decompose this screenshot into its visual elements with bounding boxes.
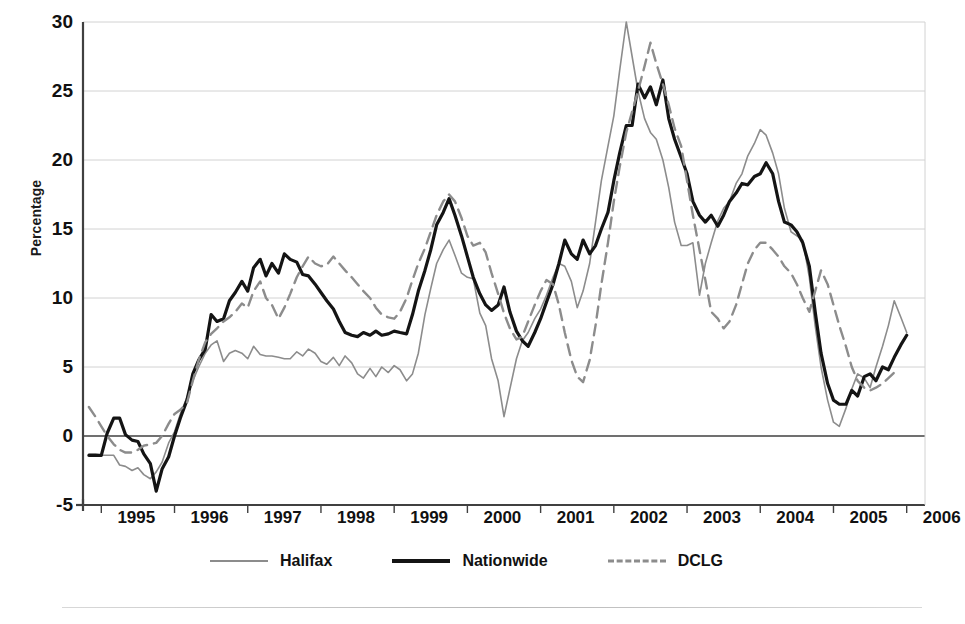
legend-swatch-halifax-icon: [210, 554, 268, 568]
chart-legend: Halifax Nationwide DCLG: [0, 552, 933, 570]
legend-swatch-dclg-icon: [608, 554, 666, 568]
series-line-nationwide: [89, 80, 907, 491]
legend-swatch-nationwide-icon: [392, 554, 450, 568]
legend-label-nationwide: Nationwide: [462, 552, 547, 570]
legend-item-dclg[interactable]: DCLG: [608, 552, 723, 570]
footer-divider: [62, 607, 922, 608]
legend-item-halifax[interactable]: Halifax: [210, 552, 332, 570]
series-line-dclg: [89, 43, 894, 453]
legend-label-halifax: Halifax: [280, 552, 332, 570]
legend-item-nationwide[interactable]: Nationwide: [392, 552, 547, 570]
legend-label-dclg: DCLG: [678, 552, 723, 570]
